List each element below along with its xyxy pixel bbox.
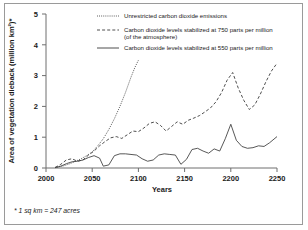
x-tick-label: 2200 [222,174,239,183]
footnote-text: * 1 sq km = 247 acres [14,207,81,215]
x-tick-label: 2250 [269,174,286,183]
series-line-1 [55,63,277,167]
y-tick-label: 4 [34,41,39,50]
legend-label-1: (of the atmosphere) [124,33,177,40]
x-tick-label: 2000 [38,174,55,183]
y-tick-label: 3 [34,71,38,80]
y-tick-label: 2 [34,102,38,111]
x-axis-label: Years [152,185,172,194]
legend-label-2: Carbon dioxide levels stabilized at 550 … [124,44,273,51]
y-tick-label: 0 [34,164,38,173]
legend-label-1: Carbon dioxide levels stabilized at 750 … [124,26,273,33]
y-tick-label: 5 [34,10,38,19]
figure-container: 012345 200020502100215022002250 Unrestri… [0,0,308,230]
legend-label-0: Unrestricted carbon dioxide emissions [124,12,227,19]
x-tick-label: 2050 [84,174,101,183]
y-axis-label: Area of vegetation dieback (million km²)… [7,18,16,163]
chart-legend: Unrestricted carbon dioxide emissionsCar… [97,12,273,51]
y-axis-ticks: 012345 [34,10,46,173]
x-axis-ticks: 200020502100215022002250 [38,168,286,183]
y-tick-label: 1 [34,133,38,142]
x-tick-label: 2100 [130,174,147,183]
data-series-group [55,60,277,167]
series-line-0 [55,60,138,167]
chart-canvas: 012345 200020502100215022002250 Unrestri… [0,0,308,230]
x-tick-label: 2150 [176,174,193,183]
series-line-2 [55,124,277,167]
